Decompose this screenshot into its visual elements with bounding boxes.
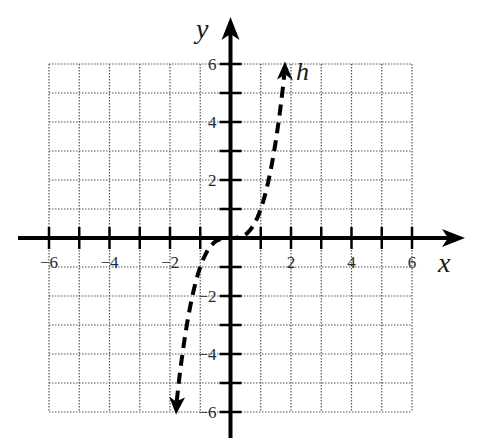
x-tick-label: 2	[287, 253, 296, 272]
axes	[18, 17, 465, 438]
x-tick-label: 6	[408, 253, 417, 272]
y-tick-label: −6	[198, 403, 216, 422]
x-tick-label: −2	[161, 253, 179, 272]
x-tick-label: 4	[347, 253, 356, 272]
curve-label-h: h	[296, 57, 309, 86]
x-tick-label: −4	[100, 253, 119, 272]
y-tick-label: −4	[198, 345, 217, 364]
y-tick-label: −2	[198, 287, 216, 306]
y-tick-label: 4	[208, 113, 217, 132]
x-tick-label: −6	[40, 253, 58, 272]
y-tick-label: 2	[208, 171, 217, 190]
x-axis-label: x	[437, 247, 451, 278]
coordinate-plane: −6−4−2246642−2−4−6 x y h	[0, 0, 481, 446]
y-axis-label: y	[193, 13, 209, 44]
y-tick-label: 6	[208, 55, 217, 74]
